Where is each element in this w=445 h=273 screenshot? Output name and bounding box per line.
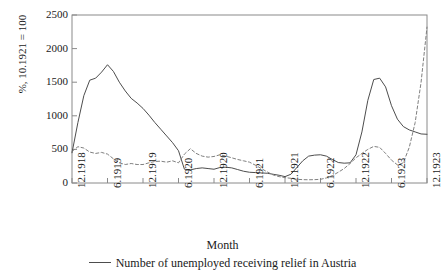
legend-label-series-0: Number of unemployed receiving relief in… bbox=[116, 256, 357, 270]
chart-figure: %, 10.1921 = 100 05001000150020002500 12… bbox=[0, 0, 445, 273]
chart-legend: Number of unemployed receiving relief in… bbox=[0, 256, 445, 271]
series-line-0 bbox=[72, 65, 427, 177]
x-axis-tick-label-0: 12.1918 bbox=[76, 152, 87, 188]
x-axis-tick-label-8: 12.1922 bbox=[360, 152, 371, 188]
y-axis-tick-label-2: 1000 bbox=[46, 110, 68, 121]
y-axis-tick-labels: 05001000150020002500 bbox=[28, 0, 68, 273]
y-axis-tick-label-3: 1500 bbox=[46, 76, 68, 87]
x-axis-tick-label-1: 6.1919 bbox=[112, 158, 123, 188]
y-axis-tick-label-4: 2000 bbox=[46, 43, 68, 54]
y-axis-tick-label-5: 2500 bbox=[46, 9, 68, 20]
plot-frame bbox=[72, 15, 427, 183]
x-axis-tick-label-4: 12.1920 bbox=[218, 152, 229, 188]
x-axis-tick-label-5: 6.1921 bbox=[254, 158, 265, 188]
x-axis-tick-label-6: 12.1921 bbox=[289, 152, 300, 188]
legend-line-marker bbox=[89, 262, 111, 263]
x-axis-label: Month bbox=[0, 238, 445, 253]
x-axis-tick-label-3: 6.1920 bbox=[183, 158, 194, 188]
x-axis-tick-label-9: 6.1923 bbox=[396, 158, 407, 188]
y-axis-tick-label-1: 500 bbox=[52, 143, 69, 154]
x-axis-tick-label-2: 12.1919 bbox=[147, 152, 158, 188]
series-line-1 bbox=[72, 27, 427, 180]
y-axis-label: %, 10.1921 = 100 bbox=[16, 0, 28, 114]
x-axis-tick-label-10: 12.1923 bbox=[431, 152, 442, 188]
x-axis-tick-label-7: 6.1922 bbox=[325, 158, 336, 188]
y-axis-tick-label-0: 0 bbox=[63, 177, 69, 188]
